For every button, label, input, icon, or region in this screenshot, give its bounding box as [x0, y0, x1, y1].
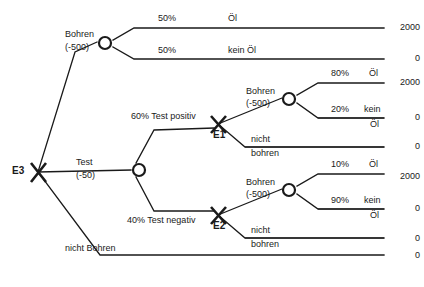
edge-label-bohren-e2-cost: (-500)	[246, 189, 270, 199]
chance-node-e2-bohren[interactable]	[283, 184, 295, 196]
outcome-label-e1-nooil-line1: kein	[364, 104, 381, 114]
edge-label-bohren-e1-cost: (-500)	[246, 98, 270, 108]
payoff-value-3: 0	[390, 112, 420, 122]
prob-label-e1-oil: 80%	[331, 68, 349, 78]
outcome-label-top-nooil: kein Öl	[228, 45, 256, 55]
payoff-value-0: 2000	[390, 22, 420, 32]
outcome-label-e2-oil: Öl	[369, 159, 378, 169]
chance-node-e1-bohren[interactable]	[283, 93, 295, 105]
edge-label-test-negativ: 40% Test negativ	[127, 215, 195, 225]
chance-node-test[interactable]	[133, 164, 145, 176]
prob-label-e2-nooil: 90%	[331, 195, 349, 205]
prob-label-e2-oil: 10%	[331, 159, 349, 169]
outcome-label-e2-nooil-line1: kein	[364, 195, 381, 205]
decision-tree-graphic	[0, 0, 424, 287]
edge-label-e1-nicht-line2: bohren	[251, 148, 279, 158]
edge-label-bohren-root-cost: (-500)	[65, 42, 89, 52]
payoff-value-1: 0	[390, 53, 420, 63]
edge-c1-oil	[297, 83, 384, 95]
outcome-label-e2-nooil-line2: Öl	[370, 210, 379, 220]
edge-label-test: Test	[76, 157, 93, 167]
payoff-value-5: 2000	[390, 171, 420, 181]
edge-label-nicht-bohren-root: nicht Bohren	[65, 243, 116, 253]
decision-tree-canvas: E3 E1 E2 Bohren (-500) Test (-50) nicht …	[0, 0, 424, 287]
edge-c0-oil	[113, 28, 384, 40]
payoff-value-7: 0	[390, 233, 420, 243]
outcome-label-e1-oil: Öl	[369, 68, 378, 78]
edge-root-bohren	[38, 42, 97, 172]
edge-label-bohren-root: Bohren	[65, 29, 94, 39]
prob-label-top-nooil: 50%	[158, 45, 176, 55]
edge-label-e1-nicht-line1: nicht	[251, 134, 270, 144]
prob-label-e1-nooil: 20%	[331, 104, 349, 114]
decision-node-label-E3: E3	[12, 166, 24, 176]
edge-label-e2-nicht-line2: bohren	[251, 239, 279, 249]
decision-node-label-E1: E1	[213, 130, 225, 140]
edge-label-test-positiv: 60% Test positiv	[131, 111, 196, 121]
payoff-value-6: 0	[390, 203, 420, 213]
edge-label-bohren-e2: Bohren	[246, 177, 275, 187]
payoff-value-4: 0	[390, 141, 420, 151]
edge-e1-nicht-bohren	[218, 124, 384, 147]
payoff-value-2: 2000	[390, 77, 420, 87]
edge-label-bohren-e1: Bohren	[246, 86, 275, 96]
edge-label-test-cost: (-50)	[76, 170, 95, 180]
chance-node-root-bohren[interactable]	[99, 37, 111, 49]
payoff-value-8: 0	[390, 250, 420, 260]
outcome-label-e1-nooil-line2: Öl	[370, 119, 379, 129]
outcome-label-top-oil: Öl	[228, 13, 237, 23]
edge-e2-nicht-bohren	[218, 215, 384, 238]
edge-label-e2-nicht-line1: nicht	[251, 225, 270, 235]
decision-node-label-E2: E2	[213, 221, 225, 231]
edge-test-negativ	[136, 177, 214, 211]
edge-test-positiv	[136, 128, 214, 163]
edge-c2-oil	[297, 174, 384, 186]
prob-label-top-oil: 50%	[158, 13, 176, 23]
